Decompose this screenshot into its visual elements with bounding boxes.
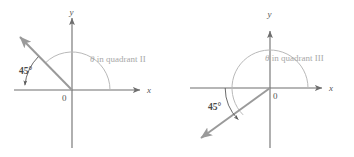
y-axis-label: y <box>69 7 74 17</box>
quadrant-caption-text: in quadrant III <box>269 53 323 63</box>
quadrant-caption: θ in quadrant II <box>90 54 146 64</box>
diagram-quadrant-iii: y x 0 45° θ in quadrant III <box>177 0 354 157</box>
x-axis-label: x <box>328 83 333 93</box>
terminal-ray <box>20 37 72 90</box>
y-axis-label: y <box>267 9 272 19</box>
quadrant-caption-text: in quadrant II <box>94 54 145 64</box>
diagram-quadrant-ii: y x 0 45° θ in quadrant II <box>0 0 177 157</box>
quadrant-caption: θ in quadrant III <box>265 53 324 63</box>
origin-label: 0 <box>273 91 278 101</box>
figure-root: y x 0 45° θ in quadrant II <box>0 0 354 157</box>
quadrant-iii-svg: y x 0 45° θ in quadrant III <box>177 0 354 157</box>
reference-angle-label: 45° <box>19 66 33 76</box>
terminal-ray <box>201 88 270 138</box>
quadrant-ii-svg: y x 0 45° θ in quadrant II <box>0 0 177 157</box>
origin-label: 0 <box>62 93 67 103</box>
x-axis-label: x <box>146 85 151 95</box>
reference-angle-label: 45° <box>208 102 222 112</box>
